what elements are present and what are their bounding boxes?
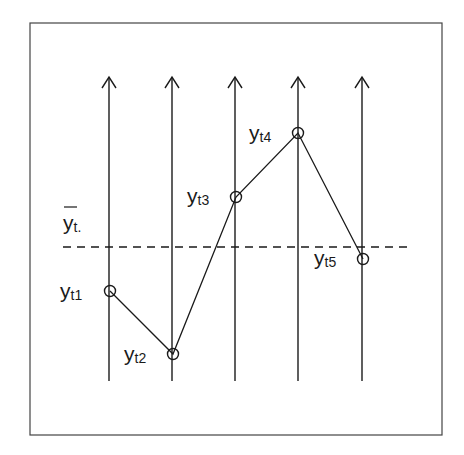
axis-arrow-3	[228, 77, 242, 381]
label-yt4: yt4	[249, 121, 271, 145]
diagram-frame	[30, 23, 442, 435]
axis-arrow-2	[165, 77, 179, 381]
vertical-axes	[102, 77, 369, 381]
series-polyline	[110, 133, 363, 354]
point-labels: yt1yt2yt3yt4yt5	[60, 121, 336, 366]
label-yt5: yt5	[314, 246, 336, 270]
label-yt1: yt1	[60, 279, 82, 303]
svg-text:yt.: yt.	[63, 211, 81, 235]
label-yt2: yt2	[124, 342, 146, 366]
axis-arrow-1	[102, 77, 116, 381]
mean-label: yt.	[63, 207, 81, 235]
time-series-diagram: yt. yt1yt2yt3yt4yt5	[0, 0, 464, 455]
label-yt3: yt3	[187, 184, 209, 208]
axis-arrow-4	[291, 77, 305, 381]
axis-arrow-5	[355, 77, 369, 381]
